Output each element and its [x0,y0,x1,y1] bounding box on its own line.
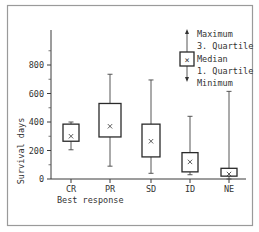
x-axis-label: Best response [57,195,124,205]
x-tick-label-sd: SD [146,184,156,194]
y-tick-label: 400 [29,117,44,127]
legend-q1: 1. Quartile [197,66,253,76]
y-tick-label: 0 [39,174,44,184]
x-tick-label-cr: CR [66,184,77,194]
iqr-box [63,124,79,141]
y-tick-label: 200 [29,146,44,156]
x-tick-label-id: ID [185,184,195,194]
box-plot-chart: 0200400600800 CRPRSDIDNE Survival days B… [0,0,259,232]
legend-median: Median [197,54,228,64]
iqr-box [221,168,237,176]
iqr-box [99,103,121,136]
x-tick-label-pr: PR [105,184,116,194]
iqr-box [142,124,160,157]
y-axis-label: Survival days [16,118,26,185]
legend-q3: 3. Quartile [197,41,253,51]
legend-minimum: Minimum [197,78,233,88]
legend-median-marker-icon: × [184,55,189,65]
x-tick-label-ne: NE [224,184,234,194]
y-tick-label: 600 [29,89,44,99]
y-tick-label: 800 [29,60,44,70]
legend-maximum: Maximum [197,29,233,39]
